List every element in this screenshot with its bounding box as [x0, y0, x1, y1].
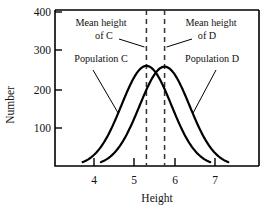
- leader-mean-c: [119, 39, 144, 47]
- y-tick-label-100: 100: [34, 122, 52, 134]
- annotation-population-d: Population D: [185, 53, 239, 64]
- x-tick-label-7: 7: [212, 174, 218, 186]
- annotation-population-c: Population C: [74, 53, 128, 64]
- x-axis-ticks: [94, 158, 215, 166]
- x-axis-title: Height: [141, 192, 173, 205]
- leader-mean-d: [167, 39, 192, 47]
- y-tick-label-300: 300: [34, 44, 52, 56]
- leader-population-d: [193, 70, 216, 113]
- y-axis-title: Number: [4, 86, 16, 124]
- leader-population-c: [93, 70, 118, 113]
- distribution-chart-figure: 400 300 200 100 Number 4 5 6 7 Height: [0, 0, 267, 210]
- plot-frame: [55, 10, 259, 166]
- x-tick-label-4: 4: [91, 174, 97, 186]
- y-axis-ticks: [55, 12, 62, 128]
- x-tick-label-6: 6: [172, 174, 178, 186]
- y-tick-label-400: 400: [34, 6, 52, 18]
- annotation-mean-d-line2: of D: [198, 30, 216, 41]
- annotation-mean-c-line1: Mean height: [75, 17, 126, 28]
- annotation-mean-c-line2: of C: [95, 30, 113, 41]
- annotation-mean-d-line1: Mean height: [185, 17, 236, 28]
- y-tick-label-200: 200: [34, 84, 52, 96]
- chart-canvas: 400 300 200 100 Number 4 5 6 7 Height: [0, 0, 267, 210]
- x-tick-label-5: 5: [131, 174, 137, 186]
